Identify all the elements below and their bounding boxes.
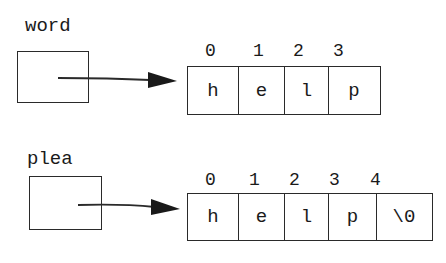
arrow-icon — [58, 72, 177, 88]
pointer-arrows — [0, 0, 446, 263]
arrow-icon — [78, 199, 180, 215]
